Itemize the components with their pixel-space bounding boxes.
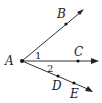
point-C	[76, 59, 79, 62]
label-B: B	[56, 7, 66, 21]
label-A: A	[4, 54, 14, 68]
point-B	[64, 22, 67, 25]
point-A	[20, 59, 24, 63]
point-D	[56, 74, 59, 77]
label-E: E	[69, 87, 79, 101]
point-E	[72, 81, 75, 84]
arrowhead-E-icon	[85, 86, 93, 92]
arrowhead-C-icon	[91, 58, 99, 64]
label-D: D	[51, 79, 62, 93]
ray-AB	[22, 11, 82, 61]
angle-2-label: 2	[47, 63, 53, 74]
label-C: C	[74, 45, 83, 59]
geometry-diagram: A B C D E 1 2	[0, 0, 102, 103]
angle-1-label: 1	[35, 50, 41, 61]
